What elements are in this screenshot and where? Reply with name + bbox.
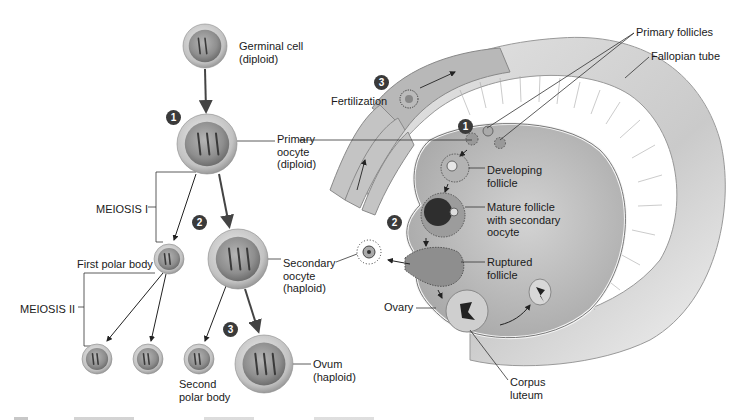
polar-body-b-cell (133, 344, 163, 374)
first-polar-body-label: First polar body (77, 258, 153, 271)
mature-follicle-label: Mature follicle with secondary oocyte (487, 201, 560, 239)
meiosis-1-label: MEIOSIS I (96, 203, 148, 216)
second-polar-body-label: Second polar body (179, 378, 230, 403)
oogenesis-figure: Germinal cell (diploid)Primary oocyte (d… (0, 0, 744, 420)
step-2-badge-left: 2 (192, 215, 207, 230)
fertilization-label: Fertilization (331, 95, 387, 108)
ovum-label: Ovum (haploid) (313, 358, 356, 383)
step-1-badge-left: 1 (166, 110, 181, 125)
meiosis-2-label: MEIOSIS II (20, 303, 75, 316)
step-2-badge-right: 2 (387, 215, 402, 230)
primary-oocyte-label: Primary oocyte (diploid) (277, 133, 316, 171)
figure-caption-cut-off (14, 414, 374, 420)
second-polar-body-cell (184, 344, 214, 374)
ovary-label: Ovary (384, 301, 413, 314)
germinal-cell-cell (183, 24, 227, 68)
secondary-oocyte-cell (208, 229, 268, 289)
step-3-badge-left: 3 (223, 322, 238, 337)
secondary-oocyte-label: Secondary oocyte (haploid) (283, 257, 336, 295)
ruptured-follicle-label: Ruptured follicle (487, 256, 532, 281)
corpus-luteum-label: Corpus luteum (510, 376, 545, 401)
first-polar-body-cell (154, 244, 184, 274)
developing-follicle-label: Developing follicle (487, 164, 542, 189)
polar-body-a-cell (82, 344, 112, 374)
primary-oocyte-cell (177, 114, 237, 174)
ovum-cell (235, 335, 293, 393)
primary-follicles-label: Primary follicles (636, 26, 713, 39)
step-3-badge-right: 3 (374, 75, 389, 90)
step-1-badge-right: 1 (458, 119, 473, 134)
germinal-cell-label: Germinal cell (diploid) (239, 40, 303, 65)
fallopian-tube-label: Fallopian tube (651, 50, 720, 63)
